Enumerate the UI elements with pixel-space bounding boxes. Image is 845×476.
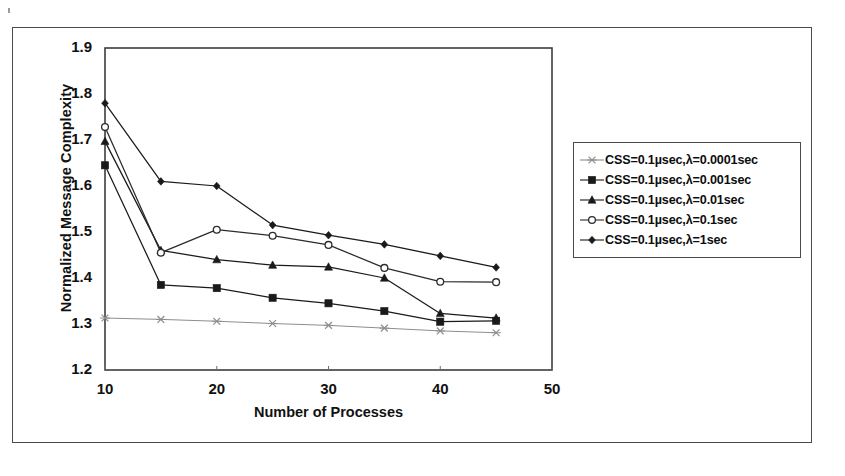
y-tick-label: 1.8 xyxy=(46,84,92,101)
legend-label: CSS=0.1µsec,λ=0.01sec xyxy=(605,193,744,207)
marker-open-circle xyxy=(102,124,109,131)
y-tick-label: 1.2 xyxy=(46,360,92,377)
legend-label: CSS=0.1µsec,λ=0.0001sec xyxy=(605,153,758,167)
legend-marker-x-marker xyxy=(579,153,605,167)
marker-filled-diamond xyxy=(381,241,388,249)
marker-open-circle xyxy=(381,264,388,271)
legend-sample-glyph xyxy=(580,236,604,244)
marker-filled-diamond xyxy=(325,231,332,239)
marker-filled-diamond xyxy=(589,236,596,244)
y-tick-label: 1.6 xyxy=(46,176,92,193)
y-axis-title: Normalized Message Complexity xyxy=(58,68,74,328)
series-line xyxy=(105,165,496,321)
plot-border-rect xyxy=(105,48,552,370)
marker-filled-triangle xyxy=(101,137,109,144)
y-tick-label: 1.3 xyxy=(46,314,92,331)
marker-open-circle xyxy=(157,249,164,256)
marker-filled-square xyxy=(213,285,220,292)
x-tick-label: 20 xyxy=(197,380,237,397)
legend-entry: CSS=0.1µsec,λ=0.001sec xyxy=(579,170,794,190)
marker-filled-diamond xyxy=(269,221,276,229)
y-tick-label: 1.7 xyxy=(46,130,92,147)
legend-entry: CSS=0.1µsec,λ=0.0001sec xyxy=(579,150,794,170)
x-tick-label: 30 xyxy=(309,380,349,397)
legend-sample-glyph xyxy=(580,176,604,183)
marker-filled-square xyxy=(381,308,388,315)
series-line xyxy=(105,127,496,282)
legend-marker-filled-diamond xyxy=(579,233,605,247)
marker-filled-square xyxy=(157,281,164,288)
series-line xyxy=(105,103,496,267)
series-3 xyxy=(102,124,500,286)
marker-filled-square xyxy=(269,294,276,301)
marker-open-circle xyxy=(437,278,444,285)
marker-open-circle xyxy=(589,217,596,224)
marker-open-circle xyxy=(493,279,500,286)
series-4 xyxy=(102,99,500,271)
marker-filled-triangle xyxy=(436,309,444,316)
x-axis-title: Number of Processes xyxy=(105,404,552,420)
legend-entry: CSS=0.1µsec,λ=0.01sec xyxy=(579,190,794,210)
marker-filled-square xyxy=(588,176,595,183)
marker-filled-diamond xyxy=(437,252,444,260)
line-chart: Normalized Message Complexity Number of … xyxy=(0,0,845,476)
legend-marker-filled-square xyxy=(579,173,605,187)
legend-marker-filled-triangle xyxy=(579,193,605,207)
legend-label: CSS=0.1µsec,λ=0.001sec xyxy=(605,173,751,187)
series-lines xyxy=(100,99,501,336)
series-2 xyxy=(101,137,500,321)
x-tick-label: 40 xyxy=(420,380,460,397)
legend-sample-glyph xyxy=(580,217,604,224)
legend-entry: CSS=0.1µsec,λ=1sec xyxy=(579,230,794,250)
legend-sample-glyph xyxy=(580,196,604,203)
x-tick-label: 50 xyxy=(532,380,572,397)
series-1 xyxy=(101,162,499,326)
y-tick-label: 1.9 xyxy=(46,38,92,55)
plot-axes-border xyxy=(105,48,552,370)
legend-label: CSS=0.1µsec,λ=1sec xyxy=(605,233,727,247)
x-tick-label: 10 xyxy=(85,380,125,397)
marker-open-circle xyxy=(213,226,220,233)
marker-filled-square xyxy=(437,318,444,325)
marker-open-circle xyxy=(325,241,332,248)
y-tick-label: 1.5 xyxy=(46,222,92,239)
legend-entry: CSS=0.1µsec,λ=0.1sec xyxy=(579,210,794,230)
marker-open-circle xyxy=(269,232,276,239)
y-tick-label: 1.4 xyxy=(46,268,92,285)
marker-filled-square xyxy=(325,300,332,307)
legend-sample-glyph xyxy=(580,157,604,164)
legend-marker-open-circle xyxy=(579,213,605,227)
marker-filled-square xyxy=(101,162,108,169)
marker-filled-diamond xyxy=(213,182,220,190)
marker-filled-diamond xyxy=(493,264,500,272)
legend-label: CSS=0.1µsec,λ=0.1sec xyxy=(605,213,737,227)
chart-legend: CSS=0.1µsec,λ=0.0001secCSS=0.1µsec,λ=0.0… xyxy=(573,142,801,258)
